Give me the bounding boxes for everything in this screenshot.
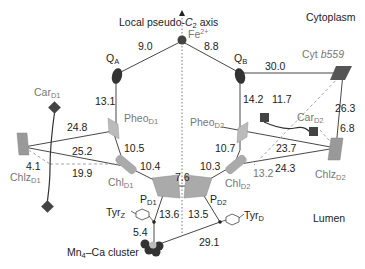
dist-qb-pheo: 14.2	[243, 93, 264, 105]
car-d1-chain	[47, 109, 55, 205]
qa-icon	[110, 67, 124, 85]
tyr-d-node	[218, 220, 222, 224]
tyr-z-icon	[131, 209, 154, 222]
dist-fe-qb: 8.8	[204, 40, 219, 52]
car-d1-tail-icon	[41, 200, 54, 213]
chlz-d2-icon	[328, 138, 343, 160]
dist-chlz2-chl2-b: 24.3	[275, 162, 296, 174]
dist-qa-pheo: 13.1	[95, 95, 116, 107]
dist-mn-tyrd: 29.1	[199, 236, 220, 248]
dist-chlz1-chl1-dashed: 19.9	[72, 167, 93, 179]
chl-d2-label: ChlD2	[225, 177, 250, 191]
qb-icon	[233, 67, 247, 85]
qa-label: QA	[106, 52, 119, 66]
chlz-d1-label: ChlzD1	[10, 171, 41, 185]
dist-pheo1-chl1: 10.5	[124, 142, 145, 154]
mn-ca-cluster-icon	[141, 240, 164, 257]
pheo-d2-label: PheoD2	[190, 116, 224, 130]
cyt-b559-icon	[330, 66, 352, 80]
dist-chlz2-chl2: 23.7	[276, 142, 297, 154]
fe-icon	[178, 36, 187, 45]
qb-label: QB	[234, 52, 247, 66]
car-d2-head-icon	[260, 113, 269, 122]
pheo-d1-label: PheoD1	[124, 112, 158, 126]
car-d1-label: CarD1	[34, 86, 61, 100]
dist-car2-chlz2: 6.8	[340, 122, 355, 134]
tyr-d-label: TyrD	[244, 209, 265, 223]
car-d2-tail-icon	[309, 127, 318, 136]
p-d2-label: PD2	[210, 193, 227, 207]
cyt-b559-label: Cyt b559	[302, 48, 344, 60]
dist-qb-cyt: 30.0	[265, 60, 286, 72]
tyr-z-node	[152, 220, 156, 224]
pheo-d1-icon	[108, 118, 119, 139]
car-d2-label: CarD2	[297, 111, 324, 125]
dist-chlz1-pheo1: 24.8	[67, 121, 88, 133]
car-d1-head-icon	[48, 101, 61, 114]
chl-d2-icon	[224, 153, 248, 175]
dist-chlz1-chl1: 25.2	[72, 145, 93, 157]
dist-car2-chl2-dashed: 13.2	[253, 167, 274, 179]
chl-d1-label: ChlD1	[108, 176, 133, 190]
chlz-d2-label: ChlzD2	[315, 168, 346, 182]
photosystem-ii-cofactor-diagram: Local pseudo-C2 axis Cytoplasm Lumen Fe2…	[0, 0, 365, 269]
dist-chl1-p1: 10.4	[140, 160, 161, 172]
region-lumen: Lumen	[313, 212, 345, 224]
dist-p2-tyrd: 13.5	[188, 208, 209, 220]
dist-cyt-chlz2: 26.3	[335, 102, 356, 114]
dist-chlz1-car1: 4.1	[26, 160, 41, 172]
region-cytoplasm: Cytoplasm	[306, 11, 356, 23]
car-d2-chain	[264, 122, 311, 133]
dist-chl2-p2: 10.3	[200, 160, 221, 172]
dist-cyt-dashed: 11.7	[272, 93, 292, 105]
dist-p1-tyrz: 13.6	[159, 208, 180, 220]
p-d1-label: PD1	[140, 193, 157, 207]
pheo-d2-icon	[237, 122, 248, 143]
chlz-d1-icon	[17, 133, 29, 155]
dist-qa-fe: 9.0	[138, 40, 153, 52]
tyr-d-icon	[220, 214, 244, 225]
fe-label: Fe2+	[188, 28, 208, 40]
mn-ca-cluster-label: Mn4–Ca cluster	[67, 246, 139, 260]
dist-p1-p2: 7.6	[175, 171, 190, 183]
dist-tyrz-mn: 5.4	[133, 226, 148, 238]
dist-pheo2-chl2: 10.7	[215, 142, 236, 154]
tyr-z-label: TyrZ	[106, 206, 126, 220]
